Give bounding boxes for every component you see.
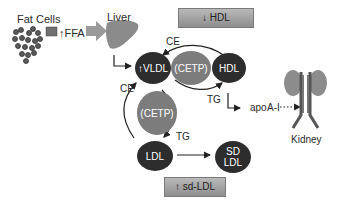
kidney-label: Kidney [291,134,322,145]
tg-left-label: TG [176,131,190,142]
tg-top-label: TG [207,94,221,105]
liver-icon [106,20,138,49]
ce-top-label: CE [166,36,180,47]
vldl-node: ↑VLDL [135,52,171,84]
fat-cells-label: Fat Cells [17,13,60,25]
sd-ldl-line2: LDL [224,157,242,168]
ffa-to-liver-arrow [86,21,107,41]
fat-cells-icon [13,27,43,64]
ffa-square-icon [46,27,57,36]
kidney-icon [284,70,327,128]
cetp-top-node: (CETP) [171,51,211,85]
hdl-node: HDL [212,53,246,83]
ffa-label: ↑FFA [59,27,85,39]
cetp-left-node: (CETP) [137,91,177,135]
liver-label: Liver [107,11,131,23]
sd-ldl-increase-box: ↑ sd-LDL [164,177,226,197]
a1-label: A-I [267,102,280,113]
hdl-decrease-box: ↓ HDL [178,8,254,28]
ldl-node: LDL [137,141,173,171]
sd-ldl-line1: SD [226,146,240,157]
ce-left-label: CE [120,83,134,94]
apo-label: apo [250,102,267,113]
sd-ldl-node: SD LDL [215,141,251,173]
